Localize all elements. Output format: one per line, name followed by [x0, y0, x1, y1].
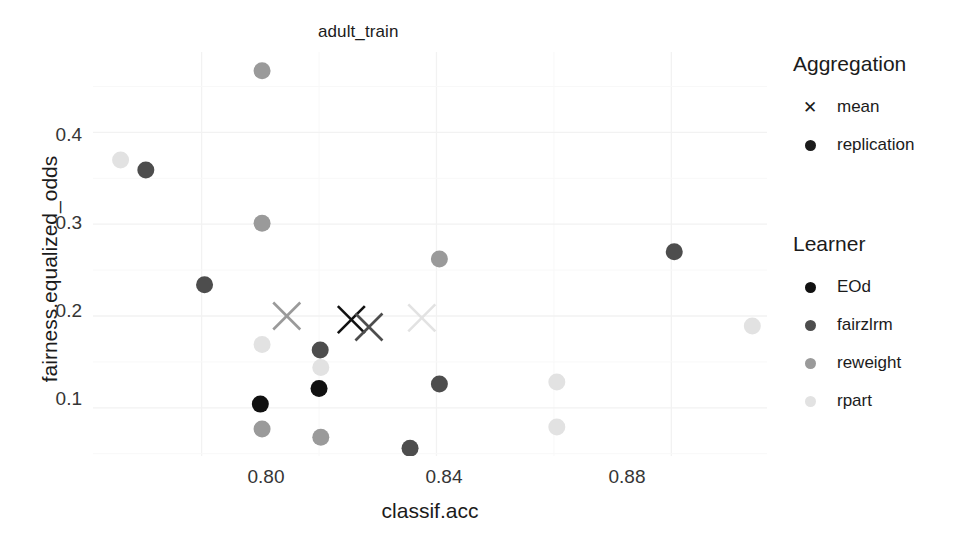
- y-tick-label-0.3: 0.3: [22, 212, 82, 234]
- legend-item-replication-label: replication: [827, 135, 915, 155]
- data-point: [312, 359, 329, 376]
- data-point: [196, 276, 213, 293]
- panel-title: adult_train: [318, 22, 399, 42]
- y-tick-label-0.2: 0.2: [22, 300, 82, 322]
- y-tick-label-0.4: 0.4: [22, 124, 82, 146]
- data-point: [431, 251, 448, 268]
- legend-learner: Learner EOd fairzlrm reweight rpart: [793, 232, 901, 420]
- data-point: [744, 318, 761, 335]
- scatter-plot-figure: adult_train fairness.equalized_odds 0.4 …: [0, 0, 965, 546]
- legend-item-eod-label: EOd: [827, 277, 871, 297]
- legend-item-rpart[interactable]: rpart: [793, 382, 901, 420]
- data-point: [312, 429, 329, 446]
- data-point: [112, 151, 129, 168]
- x-tick-label-0.88: 0.88: [592, 466, 662, 488]
- data-point: [137, 161, 154, 178]
- circle-marker-icon: [793, 396, 827, 407]
- legend-item-reweight[interactable]: reweight: [793, 344, 901, 382]
- circle-marker-icon: [793, 282, 827, 293]
- cross-marker-icon: ✕: [793, 99, 827, 116]
- plot-panel: [93, 52, 767, 456]
- x-tick-label-0.80: 0.80: [231, 466, 301, 488]
- data-point: [548, 419, 565, 436]
- series-rpart-mean: [408, 304, 435, 331]
- plot-canvas: [93, 52, 767, 456]
- y-tick-label-0.1: 0.1: [22, 388, 82, 410]
- legend-aggregation-title: Aggregation: [793, 52, 915, 76]
- circle-marker-icon: [793, 140, 827, 151]
- data-point: [402, 440, 419, 456]
- legend-item-replication[interactable]: replication: [793, 126, 915, 164]
- legend-aggregation: Aggregation ✕ mean replication: [793, 52, 915, 164]
- legend-item-reweight-label: reweight: [827, 353, 901, 373]
- data-point: [254, 62, 271, 79]
- legend-item-mean[interactable]: ✕ mean: [793, 88, 915, 126]
- legend-item-fairzlrm[interactable]: fairzlrm: [793, 306, 901, 344]
- x-tick-label-0.84: 0.84: [409, 466, 479, 488]
- series-reweight-replication: [254, 62, 448, 445]
- data-point: [548, 374, 565, 391]
- data-point: [252, 396, 269, 413]
- circle-marker-icon: [793, 320, 827, 331]
- y-axis-title: fairness.equalized_odds: [38, 59, 62, 479]
- series-fairzlrm-replication: [137, 161, 682, 456]
- data-point: [254, 336, 271, 353]
- legend-item-mean-label: mean: [827, 97, 880, 117]
- data-point: [312, 341, 329, 358]
- data-point: [254, 215, 271, 232]
- grid-lines: [93, 52, 767, 456]
- legend-learner-title: Learner: [793, 232, 901, 256]
- data-point: [666, 243, 683, 260]
- mean-marker: [408, 304, 435, 331]
- data-point: [254, 420, 271, 437]
- legend-item-fairzlrm-label: fairzlrm: [827, 315, 893, 335]
- legend-item-rpart-label: rpart: [827, 391, 872, 411]
- data-point: [431, 375, 448, 392]
- data-point: [311, 380, 328, 397]
- legend-item-eod[interactable]: EOd: [793, 268, 901, 306]
- circle-marker-icon: [793, 358, 827, 369]
- x-axis-title: classif.acc: [300, 499, 560, 523]
